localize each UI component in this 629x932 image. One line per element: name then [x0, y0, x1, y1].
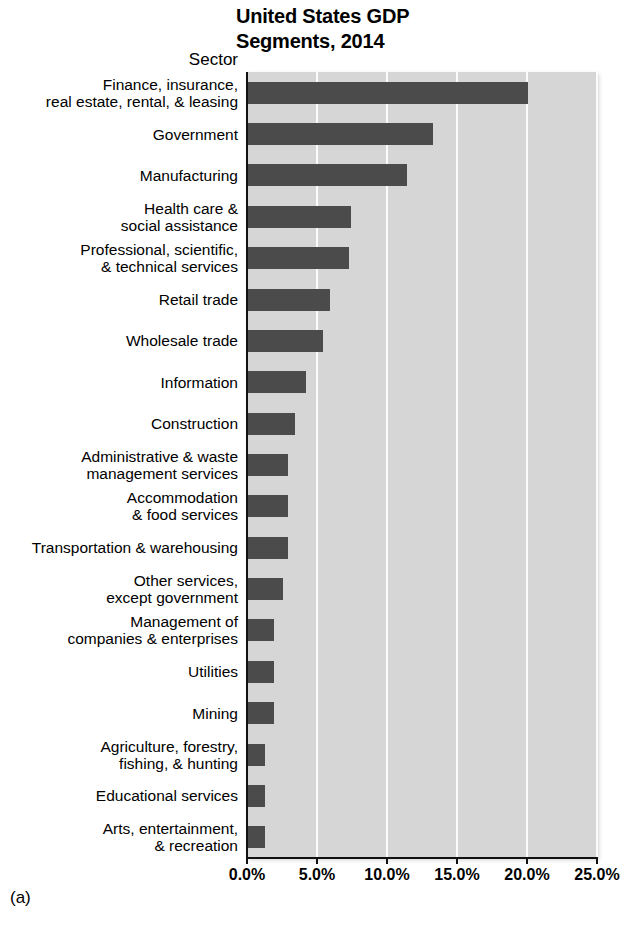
category-label-line: & food services — [0, 506, 238, 523]
tickmark — [246, 857, 248, 864]
category-label: Management ofcompanies & enterprises — [0, 613, 238, 647]
category-label: Agriculture, forestry,fishing, & hunting — [0, 738, 238, 772]
category-label-line: real estate, rental, & leasing — [0, 93, 238, 110]
category-label-line: management services — [0, 465, 238, 482]
category-label: Other services,except government — [0, 572, 238, 606]
category-label: Government — [0, 126, 238, 143]
category-label: Accommodation& food services — [0, 489, 238, 523]
category-label-line: Accommodation — [0, 489, 238, 506]
category-label-line: Transportation & warehousing — [0, 539, 238, 556]
bar — [247, 82, 528, 104]
category-label: Manufacturing — [0, 167, 238, 184]
chart-title-line: United States GDP — [236, 4, 556, 29]
chart-title-line: Segments, 2014 — [236, 29, 556, 54]
x-axis-line — [246, 857, 598, 859]
bar — [247, 371, 306, 393]
category-label-line: Utilities — [0, 663, 238, 680]
sector-axis-header: Sector — [0, 50, 238, 70]
gridline — [386, 72, 388, 858]
gridline — [316, 72, 318, 858]
gridlines — [247, 72, 597, 858]
category-label: Retail trade — [0, 291, 238, 308]
category-label-line: Management of — [0, 613, 238, 630]
bar — [247, 578, 283, 600]
category-label: Administrative & wastemanagement service… — [0, 448, 238, 482]
category-label-line: Other services, — [0, 572, 238, 589]
bar — [247, 454, 288, 476]
x-tick-label: 20.0% — [487, 866, 567, 884]
tickmark — [526, 857, 528, 864]
gridline — [596, 72, 598, 858]
x-tick-label: 0.0% — [207, 866, 287, 884]
x-tick-label: 5.0% — [277, 866, 357, 884]
plot-area — [247, 72, 597, 858]
bar — [247, 247, 349, 269]
category-label: Professional, scientific,& technical ser… — [0, 241, 238, 275]
tickmark — [316, 857, 318, 864]
category-label: Construction — [0, 415, 238, 432]
tickmark — [386, 857, 388, 864]
category-label: Wholesale trade — [0, 332, 238, 349]
bar — [247, 537, 288, 559]
category-label: Educational services — [0, 787, 238, 804]
category-label-line: Administrative & waste — [0, 448, 238, 465]
bar — [247, 330, 323, 352]
bar — [247, 164, 407, 186]
gridline — [456, 72, 458, 858]
chart-title: United States GDPSegments, 2014 — [236, 4, 556, 54]
bar — [247, 619, 274, 641]
bar — [247, 289, 330, 311]
category-label-line: & technical services — [0, 258, 238, 275]
y-axis-line — [246, 72, 248, 860]
bar — [247, 206, 351, 228]
category-label-line: Wholesale trade — [0, 332, 238, 349]
category-label-line: social assistance — [0, 217, 238, 234]
category-label: Information — [0, 374, 238, 391]
category-label-line: Health care & — [0, 200, 238, 217]
category-label-line: Government — [0, 126, 238, 143]
category-label-line: Construction — [0, 415, 238, 432]
category-label-line: Information — [0, 374, 238, 391]
category-label-line: Retail trade — [0, 291, 238, 308]
bar — [247, 744, 265, 766]
bar — [247, 661, 274, 683]
bar — [247, 495, 288, 517]
bar — [247, 413, 295, 435]
category-label-line: except government — [0, 589, 238, 606]
category-label-line: Educational services — [0, 787, 238, 804]
category-label-line: companies & enterprises — [0, 630, 238, 647]
category-label: Utilities — [0, 663, 238, 680]
category-label: Mining — [0, 705, 238, 722]
category-label: Finance, insurance,real estate, rental, … — [0, 76, 238, 110]
category-label-line: & recreation — [0, 837, 238, 854]
x-tick-label: 25.0% — [557, 866, 629, 884]
category-label-line: Finance, insurance, — [0, 76, 238, 93]
x-tick-label: 10.0% — [347, 866, 427, 884]
figure-caption: (a) — [10, 888, 31, 908]
gridline — [526, 72, 528, 858]
category-label: Transportation & warehousing — [0, 539, 238, 556]
gdp-bar-chart-figure: United States GDPSegments, 2014 Sector F… — [0, 0, 629, 932]
category-label: Health care &social assistance — [0, 200, 238, 234]
tickmark — [596, 857, 598, 864]
category-label: Arts, entertainment,& recreation — [0, 820, 238, 854]
tickmark — [456, 857, 458, 864]
category-label-line: Manufacturing — [0, 167, 238, 184]
category-label-line: Mining — [0, 705, 238, 722]
x-tick-label: 15.0% — [417, 866, 497, 884]
bar — [247, 826, 265, 848]
bar — [247, 123, 433, 145]
category-label-line: Arts, entertainment, — [0, 820, 238, 837]
category-label-line: Agriculture, forestry, — [0, 738, 238, 755]
category-label-line: fishing, & hunting — [0, 755, 238, 772]
bar — [247, 702, 274, 724]
category-label-line: Professional, scientific, — [0, 241, 238, 258]
bar — [247, 785, 265, 807]
